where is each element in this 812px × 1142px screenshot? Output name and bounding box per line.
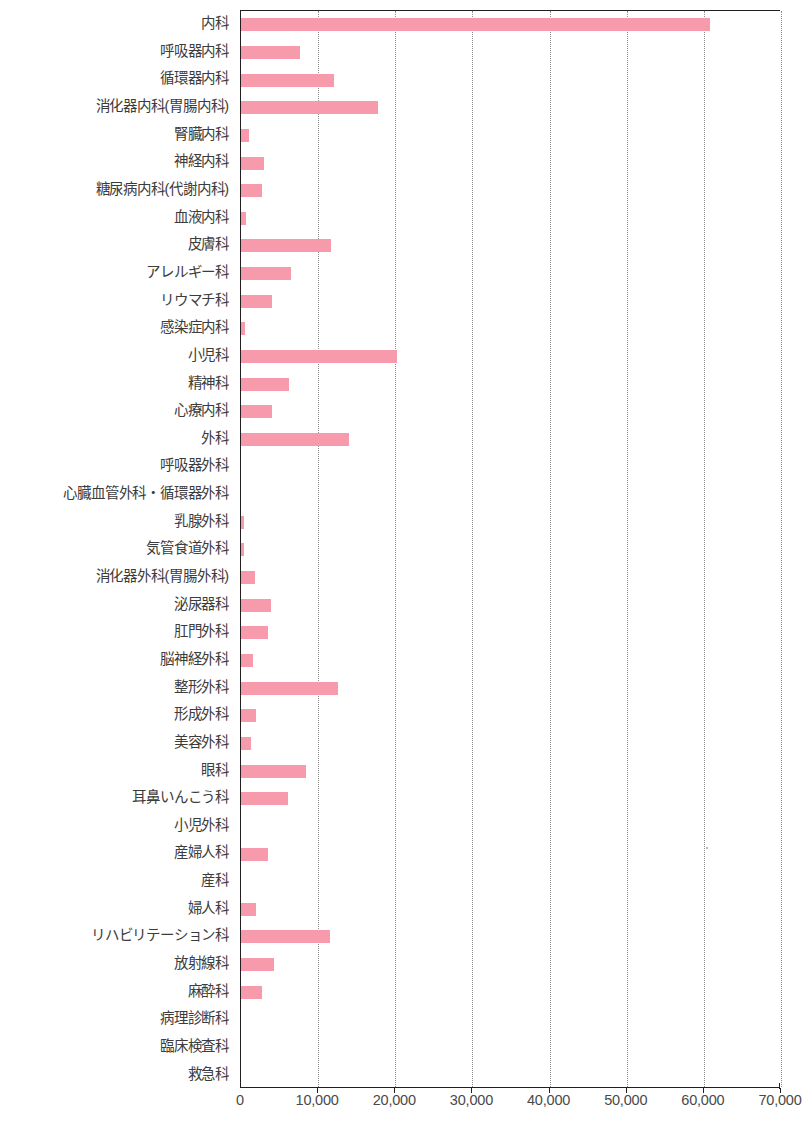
bar-row [241, 757, 780, 785]
category-label: リハビリテーション科 [0, 922, 236, 950]
bar-row [241, 785, 780, 813]
bar-chart: 内科呼吸器内科循環器内科消化器内科(胃腸内科)腎臓内科神経内科糖尿病内科(代謝内… [0, 0, 812, 1142]
category-label: 美容外科 [0, 729, 236, 757]
category-label: 耳鼻いんこう科 [0, 784, 236, 812]
category-label: 産科 [0, 867, 236, 895]
category-label: 消化器内科(胃腸内科) [0, 93, 236, 121]
bar-row [241, 11, 780, 39]
bar [241, 46, 300, 59]
category-label: 血液内科 [0, 203, 236, 231]
bar [241, 599, 271, 612]
bar-row [241, 122, 780, 150]
category-label: 脳神経外科 [0, 646, 236, 674]
bar [241, 986, 262, 999]
bar [241, 626, 268, 639]
bar [241, 571, 255, 584]
category-label: 内科 [0, 10, 236, 38]
category-label: 糖尿病内科(代謝内科) [0, 176, 236, 204]
category-label: 乳腺外科 [0, 508, 236, 536]
x-tick-mark [471, 1088, 472, 1093]
bar-row [241, 177, 780, 205]
bar [241, 350, 397, 363]
bar-row [241, 591, 780, 619]
bar-row [241, 978, 780, 1006]
x-tick-mark [780, 1088, 781, 1093]
category-label: 循環器内科 [0, 65, 236, 93]
category-label: 腎臓内科 [0, 121, 236, 149]
category-label: 病理診断科 [0, 1005, 236, 1033]
bar [241, 405, 272, 418]
bar-row [241, 730, 780, 758]
value-axis-ticks: 010,00020,00030,00040,00050,00060,00070,… [0, 1092, 812, 1118]
bar-row [241, 315, 780, 343]
bar-row [241, 840, 780, 868]
bar [241, 18, 710, 31]
x-tick-label: 70,000 [758, 1092, 801, 1108]
category-label: 心療内科 [0, 397, 236, 425]
category-label: リウマチ科 [0, 286, 236, 314]
bar-row [241, 453, 780, 481]
bar [241, 737, 251, 750]
bar-row [241, 1006, 780, 1034]
x-tick-mark [549, 1088, 550, 1093]
bar-row [241, 287, 780, 315]
bar [241, 543, 244, 556]
category-label: 眼科 [0, 756, 236, 784]
category-label: アレルギー科 [0, 259, 236, 287]
bar-row [241, 66, 780, 94]
bar [241, 378, 289, 391]
bar [241, 295, 272, 308]
category-label: 呼吸器外科 [0, 452, 236, 480]
bar [241, 958, 274, 971]
bar [241, 212, 246, 225]
bar [241, 157, 264, 170]
category-label: 小児科 [0, 342, 236, 370]
x-tick-label: 30,000 [450, 1092, 493, 1108]
category-label: 小児外科 [0, 812, 236, 840]
stray-speck [706, 847, 708, 849]
bar-row [241, 343, 780, 371]
category-label: 形成外科 [0, 701, 236, 729]
x-tick-mark [703, 1088, 704, 1093]
category-label: 肛門外科 [0, 618, 236, 646]
category-label: 呼吸器内科 [0, 38, 236, 66]
x-tick-label: 20,000 [373, 1092, 416, 1108]
bar [241, 516, 244, 529]
bar [241, 654, 253, 667]
x-tick-mark [626, 1088, 627, 1093]
category-label: 気管食道外科 [0, 535, 236, 563]
bar [241, 682, 338, 695]
x-tick-label: 50,000 [604, 1092, 647, 1108]
bar [241, 239, 331, 252]
category-axis-labels: 内科呼吸器内科循環器内科消化器内科(胃腸内科)腎臓内科神経内科糖尿病内科(代謝内… [0, 10, 236, 1088]
category-label: 婦人科 [0, 895, 236, 923]
bar-row [241, 619, 780, 647]
bar-row [241, 923, 780, 951]
bar-row [241, 647, 780, 675]
category-label: 泌尿器科 [0, 590, 236, 618]
category-label: 心臓血管外科・循環器外科 [0, 480, 236, 508]
category-label: 救急科 [0, 1060, 236, 1088]
category-label: 臨床検査科 [0, 1033, 236, 1061]
bar-row [241, 509, 780, 537]
bar-row [241, 398, 780, 426]
category-label: 外科 [0, 425, 236, 453]
bar [241, 930, 330, 943]
bar [241, 184, 262, 197]
x-tick-mark [317, 1088, 318, 1093]
bar [241, 792, 288, 805]
category-label: 精神科 [0, 369, 236, 397]
bar-row [241, 260, 780, 288]
bar [241, 709, 256, 722]
bar-row [241, 951, 780, 979]
category-label: 消化器外科(胃腸外科) [0, 563, 236, 591]
bar [241, 903, 256, 916]
bar-row [241, 813, 780, 841]
category-label: 産婦人科 [0, 839, 236, 867]
bar-row [241, 868, 780, 896]
bars-container [241, 11, 780, 1087]
bar-row [241, 1061, 780, 1089]
bar-row [241, 149, 780, 177]
bar-row [241, 564, 780, 592]
bar-row [241, 1034, 780, 1062]
